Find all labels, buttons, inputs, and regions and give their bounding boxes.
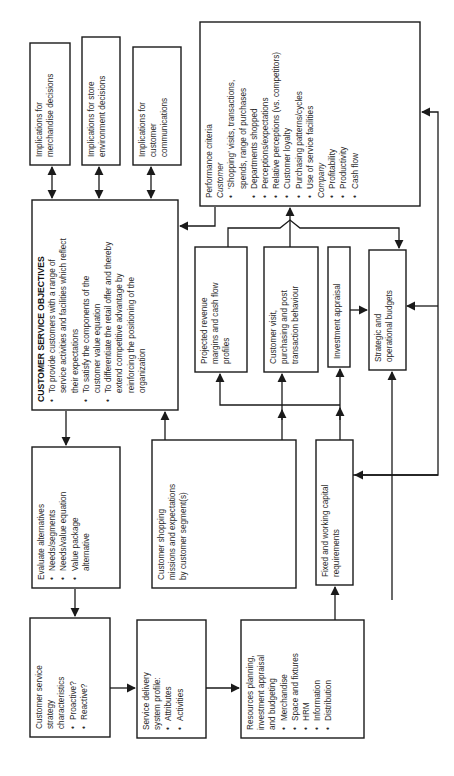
resources-planning-box-text: investment appraisal	[257, 655, 266, 730]
implications-merchandise-box-text: merchandise decisions	[46, 74, 55, 157]
customer-service-objectives-box-text: To provide customers with a range of	[48, 258, 57, 393]
customer-visit-box-text: transaction behaviour	[291, 285, 300, 364]
resources-planning-box-text: Distribution	[324, 680, 333, 721]
bullet-icon: •	[48, 577, 57, 580]
bullet-icon: •	[80, 726, 89, 729]
performance-criteria-box-text: spends, range of purchases	[239, 88, 248, 189]
performance-criteria-box-text: Relative perceptions (vs. competitors)	[272, 52, 281, 189]
implications-store-box: Implications for storeenvironment decisi…	[82, 37, 120, 165]
bullet-icon: •	[295, 195, 304, 198]
projected-revenue-box-text: profiles	[222, 338, 231, 364]
implications-store-box-text: environment decisions	[98, 76, 107, 157]
service-strategy-box-text: Customer service	[35, 665, 44, 729]
performance-criteria-box-text: Cash flow	[351, 153, 360, 189]
bullet-icon: •	[59, 577, 68, 580]
bullet-icon: •	[176, 727, 185, 730]
performance-criteria-box-text: Productivity	[339, 146, 348, 189]
projected-revenue-box-text: Projected revenue	[200, 297, 209, 364]
evaluate-alternatives-box-text: Needs/value equation	[59, 491, 68, 571]
customer-service-objectives-box-text: organization	[138, 348, 147, 393]
implications-communications-box-text: communications	[160, 98, 169, 157]
bullet-icon: •	[261, 195, 270, 198]
performance-criteria-box-text: Use of service facilities	[306, 106, 315, 189]
customer-service-objectives-box-text: reinforcing the positioning of the	[127, 276, 136, 393]
implications-communications-box-text: customer	[149, 123, 158, 157]
bullet-icon: •	[306, 195, 315, 198]
customer-service-objectives-box-text: their expectations	[71, 329, 80, 393]
line-bus-projected	[220, 374, 340, 405]
customer-shopping-box-text: Customer shopping	[157, 509, 166, 580]
service-delivery-box-text: Attributes	[164, 686, 173, 721]
resources-planning-box-text: HRM	[302, 702, 311, 721]
service-strategy-box-text: Proactive?	[69, 681, 78, 720]
service-delivery-box-text: Service delivery	[142, 671, 151, 730]
bullet-icon: •	[71, 577, 80, 580]
performance-criteria-box-text: Performance criteria	[205, 124, 214, 198]
customer-shopping-box: Customer shoppingmissions and expectatio…	[152, 440, 296, 588]
bullet-icon: •	[302, 727, 311, 730]
bullet-icon: •	[324, 727, 333, 730]
strategic-budgets-box: Strategic andoperational budgets	[369, 250, 406, 370]
customer-service-objectives-box-text: To differentiate the retail offer and th…	[104, 241, 113, 393]
bullet-icon: •	[69, 726, 78, 729]
bullet-icon: •	[104, 399, 113, 402]
investment-appraisal-box-text: Investment appraisal	[333, 283, 342, 359]
evaluate-alternatives-box: Evaluate alternativesNeeds/segments•Need…	[32, 447, 120, 588]
service-strategy-box-text: strategy	[46, 699, 55, 729]
implications-communications-box-text: Implications for	[138, 102, 147, 157]
performance-criteria-box-text: Customer loyalty	[283, 127, 292, 189]
line-projected-bus	[228, 220, 399, 248]
performance-criteria-box-text: Profitability	[328, 148, 337, 189]
bullet-icon: •	[164, 727, 173, 730]
customer-service-diagram: Implications formerchandise decisionsImp…	[0, 0, 454, 776]
performance-criteria-box-text: Departments shopped	[250, 108, 259, 189]
service-delivery-box-text: system profile:	[153, 677, 162, 730]
projected-revenue-box-text: margins and cash flow	[211, 282, 220, 364]
implications-merchandise-box: Implications formerchandise decisions	[30, 43, 70, 165]
performance-criteria-box-text: Perceptions/expectations	[261, 98, 270, 189]
resources-planning-box: Resources planning,investment appraisala…	[241, 620, 364, 738]
fixed-working-capital-box-text: Fixed and working capital	[321, 484, 330, 577]
customer-service-objectives-box-text: CUSTOMER SERVICE OBJECTIVES	[36, 256, 46, 402]
implications-merchandise-box-text: Implications for	[35, 102, 44, 157]
service-strategy-box-text: Reactive?	[80, 683, 89, 720]
implications-store-box-text: Implications for store	[87, 81, 96, 157]
evaluate-alternatives-box-text: Value package	[71, 517, 80, 571]
evaluate-alternatives-box-text: Needs/segments	[48, 510, 57, 571]
service-strategy-box-text: characteristics	[57, 677, 66, 729]
bullet-icon: •	[328, 195, 337, 198]
customer-shopping-box-text: by customer segment(s)	[179, 492, 188, 580]
customer-service-objectives-box-text: To satisfy the components of the	[82, 275, 91, 393]
resources-planning-box-text: Resources planning,	[246, 655, 255, 730]
strategic-budgets-box-text: Strategic and	[374, 313, 383, 362]
bullet-icon: •	[351, 195, 360, 198]
line-perf-to-objectives	[180, 207, 215, 226]
bullet-icon: •	[313, 727, 322, 730]
performance-criteria-box-text: Purchasing patterns/cycles	[295, 91, 304, 189]
performance-criteria-box-text: Company	[317, 162, 326, 198]
bullet-icon: •	[48, 399, 57, 402]
resources-planning-box-text: Merchandise	[280, 674, 289, 721]
customer-visit-box-text: purchasing and post	[280, 290, 289, 364]
implications-communications-box: Implications forcustomercommunications	[133, 47, 181, 165]
bullet-icon: •	[291, 727, 300, 730]
evaluate-alternatives-box-text: alternative	[82, 533, 91, 571]
performance-criteria-box-text: 'Shopping' visits, transactions,	[227, 80, 236, 189]
service-strategy-box: Customer servicestrategycharacteristicsP…	[30, 618, 110, 737]
bullet-icon: •	[339, 195, 348, 198]
customer-visit-box: Customer visit,purchasing and posttransa…	[264, 247, 318, 372]
service-delivery-box: Service deliverysystem profile:Attribute…	[137, 620, 206, 738]
bullet-icon: •	[82, 399, 91, 402]
resources-planning-box-text: and budgeting	[268, 678, 277, 730]
customer-visit-box-text: Customer visit,	[269, 310, 278, 364]
resources-planning-box-text: Space and fixtures	[291, 653, 300, 721]
bullet-icon: •	[250, 195, 259, 198]
bullet-icon: •	[283, 195, 292, 198]
customer-shopping-box-text: missions and expectations	[168, 484, 177, 580]
bullet-icon: •	[227, 195, 236, 198]
investment-appraisal-box: Investment appraisal	[328, 247, 350, 367]
customer-service-objectives-box: CUSTOMER SERVICE OBJECTIVESTo provide cu…	[32, 200, 178, 410]
strategic-budgets-box-text: operational budgets	[385, 290, 394, 362]
service-delivery-box-text: Activities	[176, 689, 185, 721]
bullet-icon: •	[280, 727, 289, 730]
